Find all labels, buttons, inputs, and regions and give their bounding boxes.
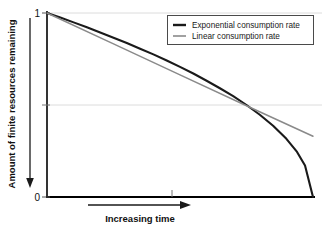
x-axis-title: Increasing time [105,213,175,224]
y-axis-title: Amount of finite resources remaining [6,19,17,188]
y-tick-label-top: 1 [34,8,40,19]
resource-depletion-chart: 1 0 Amount of finite resources remaining… [0,0,328,230]
y-axis-direction-arrow-icon [26,18,34,188]
y-tick-label-bottom: 0 [34,192,40,203]
chart-legend: Exponential consumption rate Linear cons… [168,16,314,45]
x-axis-direction-arrow-icon [88,201,191,209]
chart-figure: 1 0 Amount of finite resources remaining… [0,0,328,230]
legend-label-exponential: Exponential consumption rate [192,21,300,30]
legend-label-linear: Linear consumption rate [192,32,280,41]
